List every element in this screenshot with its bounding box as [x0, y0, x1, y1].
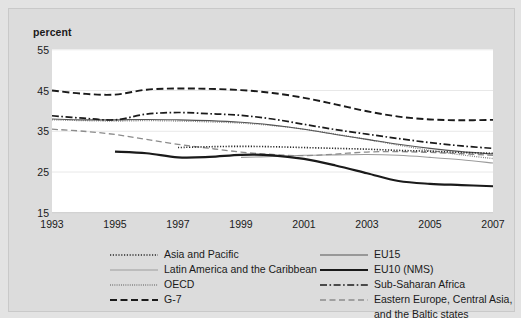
y-tick-label: 35	[13, 125, 49, 137]
legend-key-solid-bold	[320, 262, 368, 277]
x-tick-label: 1993	[32, 218, 72, 230]
legend-key	[320, 277, 368, 292]
legend-key-dash-dot	[320, 277, 368, 292]
series-line	[115, 152, 493, 187]
legend-key	[110, 247, 158, 262]
legend-label: EU10 (NMS)	[374, 262, 434, 277]
legend-key-long-dash	[320, 292, 368, 307]
legend-key-solid-thin	[320, 247, 368, 262]
y-tick-label: 45	[13, 85, 49, 97]
x-tick-label: 1997	[158, 218, 198, 230]
series-line	[52, 119, 493, 154]
x-tick-label: 2003	[347, 218, 387, 230]
legend-label: EU15	[374, 247, 400, 262]
y-tick-label: 25	[13, 166, 49, 178]
series-line	[52, 112, 493, 148]
legend-label: Asia and Pacific	[164, 247, 239, 262]
legend-key-dashed-bold	[110, 292, 158, 307]
y-tick-label: 55	[13, 44, 49, 56]
legend-key	[110, 292, 158, 307]
chart-frame: percent 5545352515 199319951997199920012…	[8, 8, 515, 312]
legend-label: Latin America and the Caribbean	[164, 262, 317, 277]
x-tick-label: 1995	[95, 218, 135, 230]
gridlines	[52, 50, 493, 213]
legend-label: OECD	[164, 277, 194, 292]
y-tick-label: 15	[13, 207, 49, 219]
legend-label: G-7	[164, 292, 182, 307]
y-axis-ticks: 5545352515	[9, 9, 49, 318]
legend-label: Sub-Saharan Africa	[374, 277, 465, 292]
legend-key	[320, 262, 368, 277]
x-tick-label: 2001	[284, 218, 324, 230]
x-tick-label: 2005	[410, 218, 450, 230]
legend-key-dotted	[110, 247, 158, 262]
legend-key	[110, 262, 158, 277]
legend-key-solid-light	[110, 262, 158, 277]
legend-key-fine-dotted	[110, 277, 158, 292]
legend-label: and the Baltic states	[374, 307, 469, 318]
legend-key	[110, 277, 158, 292]
chart-legend: Asia and PacificLatin America and the Ca…	[52, 247, 512, 313]
legend-label: Eastern Europe, Central Asia,	[374, 292, 512, 307]
figure-container: percent 5545352515 199319951997199920012…	[0, 0, 521, 318]
x-tick-label: 2007	[473, 218, 513, 230]
x-tick-label: 1999	[221, 218, 261, 230]
series-line	[52, 88, 493, 120]
legend-key	[320, 247, 368, 262]
legend-key	[320, 292, 368, 307]
